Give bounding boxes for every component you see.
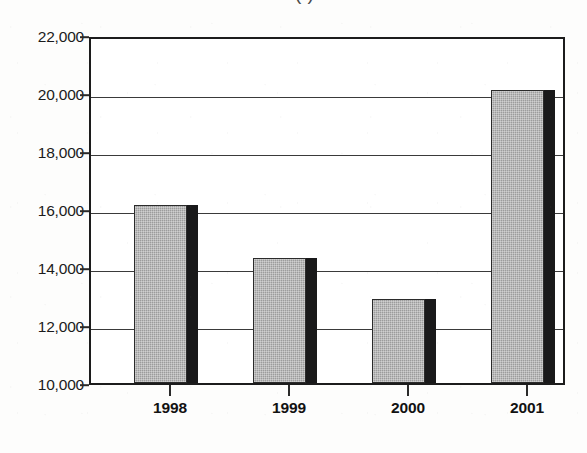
y-axis-tick-mark [80,384,89,386]
chart-title-text: ( ) [295,0,314,5]
y-axis-tick-label: 22,000 [0,28,84,46]
bar-face [491,90,544,383]
chart-title-cropped: ( ) [0,0,587,16]
chart-page: ( ) 22,00020,00018,00016,00014,00012,000… [0,0,587,453]
x-axis-tick-mark [288,385,290,396]
y-axis-tick-label: 12,000 [0,318,84,336]
x-axis-tick-mark [169,385,171,396]
x-axis-tick-label-2001: 2001 [482,399,572,417]
x-axis-tick-mark [526,385,528,396]
y-axis-tick-mark [80,268,89,270]
bar-shadow [424,299,436,383]
x-axis-tick-mark [407,385,409,396]
y-axis-tick-mark [80,210,89,212]
bar-shadow [543,90,555,383]
y-axis-tick-label: 10,000 [0,376,84,394]
y-axis-tick-mark [80,152,89,154]
bar-face [134,205,187,383]
y-axis-tick-mark [80,36,89,38]
y-axis-tick-label: 14,000 [0,260,84,278]
x-axis-tick-label-2000: 2000 [363,399,453,417]
y-axis-tick-label: 18,000 [0,144,84,162]
y-axis-tick-label: 16,000 [0,202,84,220]
plot-area [89,37,565,385]
bar-face [253,258,306,383]
x-axis-tick-label-1999: 1999 [244,399,334,417]
bar-face [372,299,425,383]
bar-shadow [186,205,198,383]
y-axis-tick-mark [80,94,89,96]
bar-shadow [305,258,317,383]
y-axis-tick-mark [80,326,89,328]
x-axis-tick-label-1998: 1998 [125,399,215,417]
y-axis-tick-label: 20,000 [0,86,84,104]
